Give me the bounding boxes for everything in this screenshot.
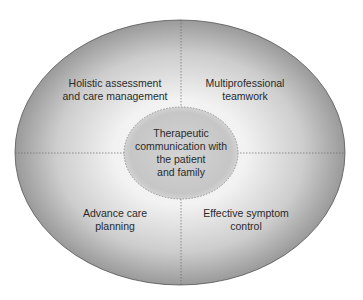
label-line: planning xyxy=(83,220,147,233)
label-line: communication with xyxy=(135,140,227,153)
quadrant-bottom-left-label: Advance care planning xyxy=(83,207,147,233)
label-line: Advance care xyxy=(83,207,147,220)
label-line: control xyxy=(203,220,289,233)
quadrant-top-right-label: Multiprofessional teamwork xyxy=(206,77,285,103)
label-line: and care management xyxy=(62,90,167,103)
label-line: Holistic assessment xyxy=(62,77,167,90)
label-line: Effective symptom xyxy=(203,207,289,220)
label-line: Multiprofessional xyxy=(206,77,285,90)
center-label: Therapeutic communication with the patie… xyxy=(135,127,227,179)
label-line: Therapeutic xyxy=(135,127,227,140)
label-line: the patient xyxy=(135,153,227,166)
quadrant-top-left-label: Holistic assessment and care management xyxy=(62,77,167,103)
label-line: and family xyxy=(135,166,227,179)
quadrant-bottom-right-label: Effective symptom control xyxy=(203,207,289,233)
label-line: teamwork xyxy=(206,90,285,103)
